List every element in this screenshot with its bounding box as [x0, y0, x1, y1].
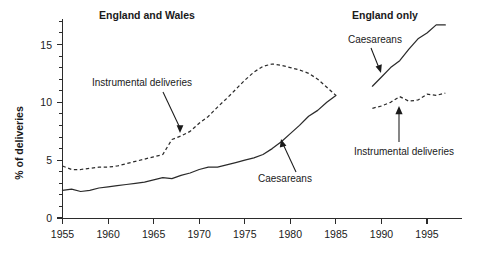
annotation-ew-caesareans-label: Caesareans — [258, 173, 312, 184]
y-tick-label-10: 10 — [40, 96, 52, 108]
panel-title-england-and-wales: England and Wales — [99, 9, 195, 21]
panel-title-england-only: England only — [352, 9, 418, 21]
x-tick-label-1970: 1970 — [188, 228, 212, 240]
annotation-eo-caesareans-leader — [371, 48, 379, 68]
x-tick-label-1955: 1955 — [51, 228, 75, 240]
annotation-eo-instrumental: Instrumental deliveries — [354, 106, 454, 157]
y-tick-label-15: 15 — [40, 39, 52, 51]
y-tick-label-0: 0 — [46, 212, 52, 224]
y-tick-label-5: 5 — [46, 154, 52, 166]
annotation-eo-caesareans-label: Caesareans — [348, 34, 402, 45]
annotation-ew-instrumental-arrowhead — [177, 125, 184, 133]
y-minor-ticks — [59, 21, 63, 206]
y-axis-title: % of deliveries — [13, 106, 25, 180]
x-tick-label-1960: 1960 — [96, 228, 120, 240]
annotation-ew-instrumental-leader — [163, 92, 180, 128]
y-axis: 0 5 10 15 % of deliveries — [13, 19, 63, 224]
x-axis: 1955 1960 1965 1970 1975 1980 1985 1990 … — [51, 219, 462, 241]
x-ticks — [63, 219, 428, 224]
line-eo-instrumental-deliveries — [372, 93, 445, 108]
annotation-eo-caesareans: Caesareans — [348, 34, 402, 73]
x-tick-label-1985: 1985 — [324, 228, 348, 240]
annotation-eo-instrumental-arrowhead — [395, 106, 402, 114]
x-tick-label-1980: 1980 — [279, 228, 303, 240]
chart-canvas: 0 5 10 15 % of deliveries 1955 1960 1965… — [0, 0, 484, 263]
annotation-ew-instrumental: Instrumental deliveries — [92, 77, 192, 133]
x-tick-label-1975: 1975 — [233, 228, 257, 240]
annotation-ew-caesareans: Caesareans — [258, 139, 312, 184]
annotation-eo-instrumental-label: Instrumental deliveries — [354, 146, 454, 157]
annotation-eo-caesareans-arrowhead — [376, 64, 382, 73]
x-tick-label-1965: 1965 — [142, 228, 166, 240]
x-tick-label-1990: 1990 — [370, 228, 394, 240]
annotation-ew-caesareans-leader — [283, 144, 296, 172]
annotation-ew-instrumental-label: Instrumental deliveries — [92, 77, 192, 88]
chart-figure: 0 5 10 15 % of deliveries 1955 1960 1965… — [0, 0, 484, 263]
x-tick-label-1995: 1995 — [415, 228, 439, 240]
